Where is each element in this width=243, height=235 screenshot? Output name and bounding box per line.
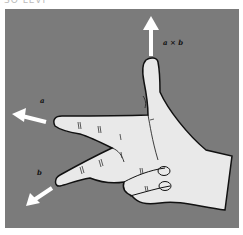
label-b: b (37, 168, 42, 177)
arrow-b-icon (26, 188, 52, 206)
arrow-cross-product-icon (143, 16, 159, 56)
label-a: a (40, 96, 45, 105)
arrow-a-icon (12, 108, 46, 122)
hand-illustration (54, 58, 232, 210)
right-hand-rule-figure (0, 0, 243, 235)
label-cross-product: a × b (163, 38, 183, 47)
